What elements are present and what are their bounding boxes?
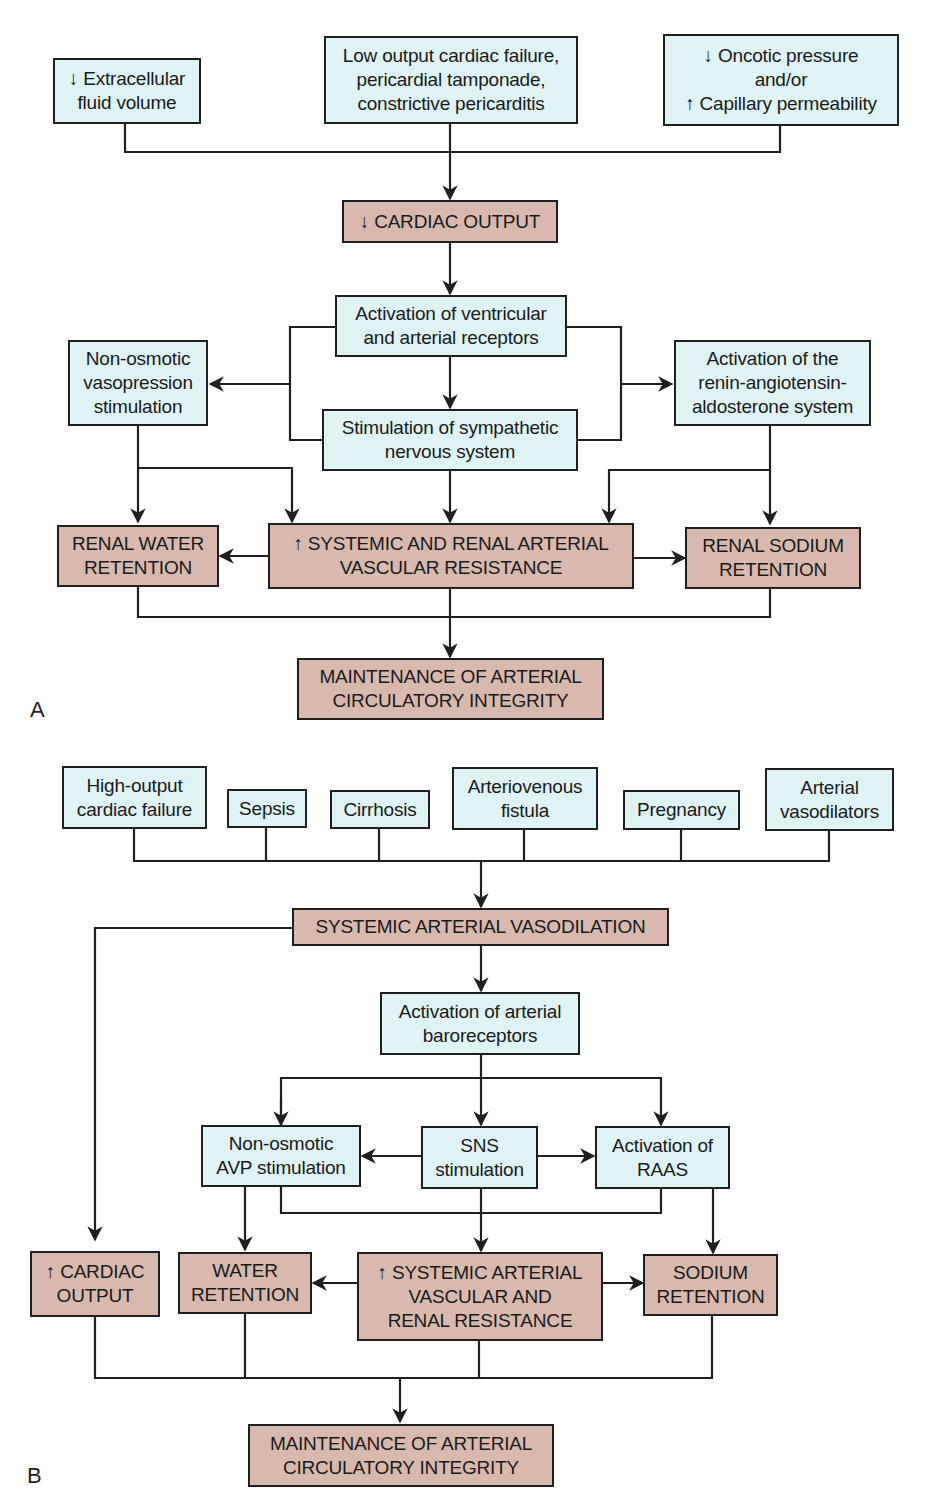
- cause-cirrhosis: Cirrhosis: [330, 790, 430, 829]
- renal-water-retention: RENAL WATER RETENTION: [57, 525, 219, 587]
- cause-low-output-failure: Low output cardiac failure, pericardial …: [324, 36, 578, 124]
- sodium-retention: SODIUM RETENTION: [643, 1254, 778, 1316]
- increased-cardiac-output: ↑ CARDIAC OUTPUT: [30, 1251, 160, 1317]
- cause-pregnancy: Pregnancy: [623, 790, 740, 830]
- activation-of-raas: Activation of RAAS: [595, 1126, 730, 1189]
- sns-stimulation: SNS stimulation: [421, 1126, 538, 1189]
- activation-ventricular-arterial-receptors: Activation of ventricular and arterial r…: [335, 295, 567, 357]
- activation-raas: Activation of the renin-angiotensin- ald…: [674, 340, 871, 426]
- cause-oncotic-pressure: ↓ Oncotic pressure and/or ↑ Capillary pe…: [663, 34, 899, 126]
- systemic-arterial-vascular-renal-resistance: ↑ SYSTEMIC ARTERIAL VASCULAR AND RENAL R…: [357, 1252, 603, 1341]
- panel-label-b: B: [27, 1463, 42, 1489]
- maintenance-arterial-integrity-b: MAINTENANCE OF ARTERIAL CIRCULATORY INTE…: [248, 1424, 554, 1487]
- panel-label-a: A: [30, 697, 45, 723]
- activation-arterial-baroreceptors: Activation of arterial baroreceptors: [380, 992, 580, 1055]
- non-osmotic-vasopression: Non-osmotic vasopression stimulation: [68, 340, 208, 426]
- cause-arteriovenous-fistula: Arteriovenous fistula: [452, 767, 598, 830]
- decreased-cardiac-output: ↓ CARDIAC OUTPUT: [342, 200, 558, 243]
- cause-high-output-failure: High-output cardiac failure: [62, 766, 207, 829]
- stimulation-sympathetic-nervous-system: Stimulation of sympathetic nervous syste…: [322, 409, 578, 471]
- water-retention: WATER RETENTION: [178, 1252, 312, 1314]
- cause-arterial-vasodilators: Arterial vasodilators: [765, 768, 894, 831]
- cause-extracellular-fluid: ↓ Extracellular fluid volume: [53, 58, 201, 124]
- renal-sodium-retention: RENAL SODIUM RETENTION: [685, 527, 861, 589]
- non-osmotic-avp-stimulation: Non-osmotic AVP stimulation: [201, 1125, 361, 1187]
- cause-sepsis: Sepsis: [227, 789, 307, 828]
- maintenance-arterial-integrity-a: MAINTENANCE OF ARTERIAL CIRCULATORY INTE…: [297, 658, 604, 720]
- systemic-arterial-vasodilation: SYSTEMIC ARTERIAL VASODILATION: [292, 908, 669, 946]
- systemic-renal-vascular-resistance: ↑ SYSTEMIC AND RENAL ARTERIAL VASCULAR R…: [268, 523, 634, 589]
